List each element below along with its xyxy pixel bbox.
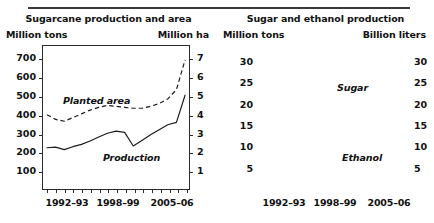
left-ytick-right-6 — [189, 78, 193, 79]
left-xtick-8 — [117, 189, 118, 193]
left-ylabel-right-7: 7 — [197, 53, 204, 63]
left-chart-left-axis-caption: Million tons — [6, 29, 67, 40]
left-ylabel-600: 600 — [6, 72, 36, 82]
right-ylabel-right-5: 5 — [414, 164, 421, 174]
right-xlabel-1998-99: 1998–99 — [313, 197, 356, 208]
left-xtick-11 — [143, 189, 144, 193]
left-xtick-3 — [73, 189, 74, 193]
left-ytick-right-5 — [189, 97, 193, 98]
left-ylabel-right-2: 2 — [197, 148, 204, 158]
left-xlabel-2005-06: 2005–06 — [150, 197, 193, 208]
left-ylabel-700: 700 — [6, 53, 36, 63]
left-ylabel-right-1: 1 — [197, 166, 204, 176]
left-xtick-0 — [47, 189, 48, 193]
left-ytick-right-2 — [189, 153, 193, 154]
right-ylabel-right-20: 20 — [414, 100, 427, 110]
left-ylabel-300: 300 — [6, 129, 36, 139]
left-xtick-16 — [187, 189, 188, 193]
right-ylabel-15: 15 — [225, 121, 253, 131]
left-ylabel-100: 100 — [6, 166, 36, 176]
left-ylabel-500: 500 — [6, 91, 36, 101]
left-ylabel-right-5: 5 — [197, 91, 204, 101]
left-xtick-13 — [161, 189, 162, 193]
left-ylabel-right-3: 3 — [197, 129, 204, 139]
chart-panel-sugar-ethanol: Sugar and ethanol production Million ton… — [217, 0, 434, 223]
annotation-sugar: Sugar — [337, 82, 368, 93]
left-ytick-right-4 — [189, 116, 193, 117]
left-xtick-1 — [56, 189, 57, 193]
left-xtick-15 — [178, 189, 179, 193]
left-xtick-10 — [135, 189, 136, 193]
left-ylabel-right-6: 6 — [197, 72, 204, 82]
left-xtick-6 — [100, 189, 101, 193]
left-xtick-14 — [170, 189, 171, 193]
left-ytick-right-1 — [189, 172, 193, 173]
left-xtick-9 — [126, 189, 127, 193]
chart-panel-sugarcane: Sugarcane production and area Million to… — [0, 0, 217, 223]
right-ylabel-10: 10 — [225, 143, 253, 153]
annotation-ethanol: Ethanol — [342, 152, 382, 163]
left-xtick-2 — [65, 189, 66, 193]
series-planted-area-line — [47, 60, 185, 121]
left-xtick-12 — [152, 189, 153, 193]
left-xtick-4 — [82, 189, 83, 193]
right-ylabel-right-25: 25 — [414, 79, 427, 89]
figure-root: Sugarcane production and area Million to… — [0, 0, 434, 223]
right-chart-left-axis-caption: Million tons — [223, 29, 284, 40]
left-ytick-right-3 — [189, 135, 193, 136]
left-chart-plot-area — [42, 45, 190, 190]
right-ylabel-right-15: 15 — [414, 121, 427, 131]
annotation-production: Production — [103, 152, 160, 163]
right-ylabel-20: 20 — [225, 100, 253, 110]
left-chart-series-svg — [43, 46, 189, 189]
right-chart-right-axis-caption: Billion liters — [363, 29, 426, 40]
left-ylabel-200: 200 — [6, 148, 36, 158]
right-xlabel-1992-93: 1992–93 — [262, 197, 305, 208]
left-xlabel-1998-99: 1998–99 — [96, 197, 139, 208]
left-xlabel-1992-93: 1992–93 — [45, 197, 88, 208]
left-xtick-7 — [108, 189, 109, 193]
right-xlabel-2005-06: 2005–06 — [367, 197, 410, 208]
annotation-planted-area: Planted area — [63, 95, 130, 106]
left-ytick-right-7 — [189, 59, 193, 60]
right-ylabel-right-30: 30 — [414, 57, 427, 67]
right-ylabel-5: 5 — [225, 164, 253, 174]
right-chart-title: Sugar and ethanol production — [217, 13, 434, 24]
left-chart-title: Sugarcane production and area — [0, 13, 217, 24]
left-ylabel-400: 400 — [6, 110, 36, 120]
left-chart-right-axis-caption: Million ha — [158, 29, 209, 40]
left-ylabel-right-4: 4 — [197, 110, 204, 120]
right-ylabel-30: 30 — [225, 57, 253, 67]
right-ylabel-right-10: 10 — [414, 143, 427, 153]
right-ylabel-25: 25 — [225, 79, 253, 89]
left-xtick-5 — [91, 189, 92, 193]
